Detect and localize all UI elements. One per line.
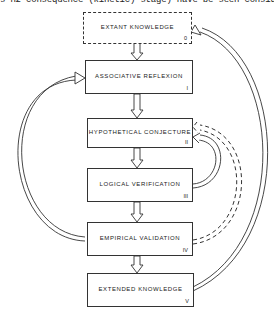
arrow-0-to-1 (131, 43, 143, 60)
box-number: 0 (184, 35, 187, 41)
box-label: EXTENDED KNOWLEDGE (88, 286, 193, 292)
box-associative-reflexion: ASSOCIATIVE REFLEXION I (85, 60, 193, 94)
arrow-2-to-3 (131, 148, 143, 168)
box-empirical-validation: EMPIRICAL VALIDATION IV (87, 222, 193, 256)
box-logical-verification: LOGICAL VERIFICATION III (87, 168, 193, 202)
box-label: EMPIRICAL VALIDATION (88, 235, 192, 241)
box-label: EXTANT KNOWLEDGE (84, 24, 191, 30)
arrow-4-to-1-left (18, 72, 85, 241)
box-extended-knowledge: EXTENDED KNOWLEDGE V (87, 273, 194, 307)
box-extant-knowledge: EXTANT KNOWLEDGE 0 (83, 12, 192, 44)
box-label: LOGICAL VERIFICATION (88, 181, 192, 187)
box-label: ASSOCIATIVE REFLEXION (86, 73, 192, 79)
arrow-1-to-2 (131, 94, 143, 118)
arrow-3-to-4 (131, 202, 143, 222)
box-label: HYPOTHETICAL CONJECTURE (88, 129, 192, 135)
box-number: IV (183, 247, 188, 253)
box-hypothetical-conjecture: HYPOTHETICAL CONJECTURE II (87, 118, 193, 148)
box-number: III (183, 193, 188, 199)
box-number: II (185, 139, 188, 145)
arrow-3-to-2-loop (193, 133, 221, 188)
arrows-layer (0, 0, 274, 316)
arrow-5-to-0-right (191, 25, 268, 291)
arrow-4-to-5 (131, 256, 143, 273)
box-number: I (186, 85, 188, 91)
box-number: V (185, 298, 189, 304)
